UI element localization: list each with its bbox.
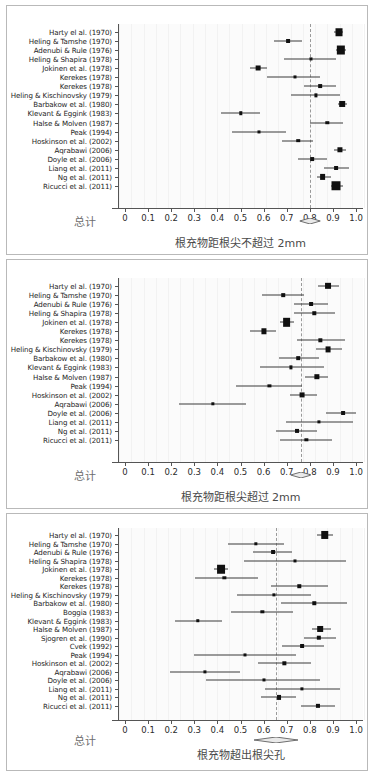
effect-size-marker — [305, 438, 308, 441]
study-label: Harty el al. (1970) — [49, 282, 112, 291]
effect-size-marker — [332, 181, 341, 191]
background-band — [119, 528, 120, 720]
x-axis-tick-label: 0.7 — [280, 213, 294, 223]
study-row-tick — [115, 358, 118, 359]
effect-size-marker — [211, 402, 214, 405]
study-row-tick — [115, 440, 118, 441]
effect-size-marker — [298, 585, 301, 589]
study-row-tick — [115, 95, 118, 96]
effect-size-marker — [261, 329, 266, 334]
study-label: Adenubi & Rule (1976) — [34, 300, 112, 309]
x-axis-tick — [125, 463, 126, 466]
background-band — [364, 278, 365, 462]
study-label: Ng et al. (2011) — [58, 172, 112, 181]
study-label: Harty el al. (1970) — [49, 28, 112, 37]
study-row-tick — [115, 689, 118, 690]
effect-size-marker — [299, 392, 304, 397]
effect-size-marker — [262, 679, 265, 682]
study-row-tick — [115, 561, 118, 562]
x-axis-tick-label: 0.6 — [257, 213, 271, 223]
background-band — [144, 528, 145, 720]
x-axis-tick — [171, 209, 172, 212]
study-row-tick — [115, 159, 118, 160]
study-label: Aqrabawi (2006) — [55, 145, 112, 154]
background-band — [156, 24, 157, 208]
x-axis-tick — [241, 721, 242, 724]
study-row-tick — [115, 404, 118, 405]
x-axis-title: 根充物距根尖超过 2mm — [181, 488, 301, 504]
x-axis-tick — [333, 463, 334, 466]
study-label: Aqrabawi (2006) — [55, 399, 112, 408]
x-axis-tick — [264, 463, 265, 466]
effect-size-marker — [326, 347, 331, 352]
study-row-tick — [115, 697, 118, 698]
study-label: Heling & Shapira (1978) — [29, 55, 112, 64]
x-axis-tick — [287, 209, 288, 212]
plot-area — [118, 528, 363, 720]
x-axis-tick-label: 0.1 — [141, 467, 155, 477]
study-row-tick — [115, 313, 118, 314]
effect-size-marker — [314, 94, 317, 97]
background-band — [278, 278, 279, 462]
effect-size-marker — [325, 283, 331, 289]
study-label: Kerekes (1978) — [60, 82, 112, 91]
study-label: Liang et al. (2011) — [49, 417, 112, 426]
study-row-tick — [115, 168, 118, 169]
background-band — [327, 24, 328, 208]
x-axis-tick — [194, 463, 195, 466]
effect-size-marker — [325, 121, 328, 125]
background-band — [180, 528, 181, 720]
background-band — [327, 278, 328, 462]
study-row-tick — [115, 86, 118, 87]
background-band — [291, 528, 292, 720]
panel-2-plot: 00.10.20.30.40.50.60.70.80.91.0Harty el … — [7, 260, 367, 508]
background-band — [229, 24, 230, 208]
effect-size-marker — [339, 101, 345, 107]
study-label: Hoskinson et al. (2002) — [32, 390, 112, 399]
plot-area — [118, 24, 363, 208]
effect-size-marker — [313, 602, 316, 606]
background-band — [352, 528, 353, 720]
background-band — [315, 278, 316, 462]
forest-panel-3: 00.10.20.30.40.50.60.70.80.91.0Harty el … — [6, 513, 368, 771]
background-band — [352, 24, 353, 208]
effect-size-marker — [223, 576, 226, 579]
study-row-tick — [115, 586, 118, 587]
background-band — [266, 528, 267, 720]
summary-diamond — [290, 463, 311, 469]
effect-size-marker — [337, 147, 342, 152]
background-band — [315, 24, 316, 208]
background-band — [229, 278, 230, 462]
forest-panel-2: 00.10.20.30.40.50.60.70.80.91.0Harty el … — [6, 259, 368, 509]
x-axis-tick — [217, 209, 218, 212]
background-band — [193, 278, 194, 462]
study-label: Ricucci et al. (2011) — [43, 702, 112, 711]
x-axis-tick — [194, 721, 195, 724]
background-band — [156, 278, 157, 462]
total-summary-label: 总计 — [74, 467, 96, 483]
background-band — [327, 528, 328, 720]
effect-size-marker — [341, 411, 345, 415]
study-label: Peak (1994) — [70, 127, 112, 136]
background-band — [205, 278, 206, 462]
x-axis-tick — [310, 721, 311, 724]
effect-size-marker — [255, 66, 260, 71]
effect-size-marker — [272, 593, 275, 596]
background-band — [315, 528, 316, 720]
study-row-tick — [115, 569, 118, 570]
x-axis-tick — [287, 463, 288, 466]
x-axis-tick — [148, 721, 149, 724]
study-label: Heling & Tamshe (1970) — [29, 37, 112, 46]
study-row-tick — [115, 41, 118, 42]
effect-size-marker — [320, 174, 326, 180]
total-summary-label: 总计 — [74, 732, 96, 748]
effect-size-marker — [281, 293, 285, 297]
study-row-tick — [115, 113, 118, 114]
x-axis-tick — [356, 721, 357, 724]
study-row-tick — [115, 431, 118, 432]
background-band — [168, 24, 169, 208]
study-row-tick — [115, 295, 118, 296]
forest-panel-1: 00.10.20.30.40.50.60.70.80.91.0Harty el … — [6, 5, 368, 255]
effect-size-marker — [293, 76, 296, 79]
x-axis-tick — [241, 463, 242, 466]
